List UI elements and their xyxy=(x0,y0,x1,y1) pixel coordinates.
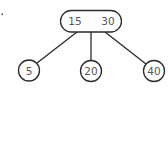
root-key-1: 15 xyxy=(68,15,81,27)
root-key-2: 30 xyxy=(101,15,114,27)
root-node: 15 30 xyxy=(61,11,122,33)
child-node-right: 40 xyxy=(144,61,165,82)
child-key-middle: 20 xyxy=(84,65,97,77)
child-key-right: 40 xyxy=(147,65,160,77)
edge-root-to-right xyxy=(105,32,146,64)
edge-root-to-left xyxy=(37,32,77,63)
child-key-left: 5 xyxy=(26,65,33,77)
stray-dot xyxy=(2,14,4,16)
child-node-middle: 20 xyxy=(81,61,102,82)
tree-diagram: 15 30 5 20 40 xyxy=(0,0,168,145)
child-node-left: 5 xyxy=(19,60,40,81)
